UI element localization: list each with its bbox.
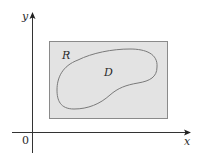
origin-label: 0 [22, 134, 29, 147]
diagram-canvas: y x 0 R D [0, 0, 197, 164]
region-label: D [103, 66, 113, 79]
rectangle-label: R [61, 49, 70, 62]
x-axis-label: x [184, 135, 191, 148]
y-axis-label: y [21, 10, 29, 23]
diagram-figure: y x 0 R D [0, 0, 197, 164]
